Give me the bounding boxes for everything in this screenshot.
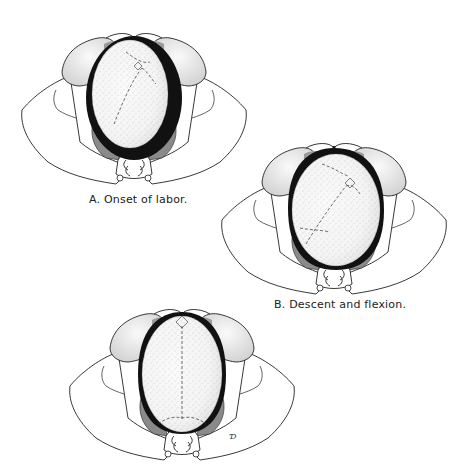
pelvis-illustration-onset-of-labor	[18, 14, 250, 184]
caption-panel-a: A. Onset of labor.	[89, 193, 187, 206]
pelvis-drawing-c	[66, 290, 298, 460]
artist-signature: Ɗ	[230, 432, 236, 441]
pelvis-drawing-a	[18, 14, 250, 184]
pelvis-drawing-b	[218, 124, 450, 294]
pelvis-illustration-descent-and-flexion	[218, 124, 450, 296]
pelvis-illustration-internal-rotation	[66, 290, 300, 462]
